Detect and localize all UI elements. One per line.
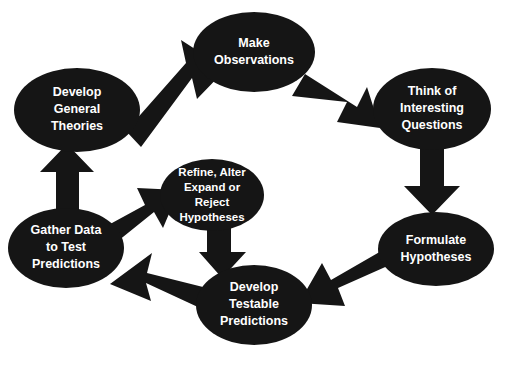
node-label-line: Develop bbox=[230, 280, 279, 294]
arrow-observations-to-questions bbox=[292, 74, 380, 128]
node-label-line: Predictions bbox=[220, 314, 288, 328]
node-label-line: Hypotheses bbox=[401, 250, 472, 264]
node-develop-general-theories[interactable]: DevelopGeneralTheories bbox=[14, 68, 140, 152]
diagram-canvas: DevelopGeneralTheoriesMakeObservationsTh… bbox=[0, 0, 512, 367]
node-label-line: Develop bbox=[53, 85, 102, 99]
node-label-line: Questions bbox=[401, 118, 462, 132]
node-refine-alter-expand-or-reject-hypotheses[interactable]: Refine, AlterExpand orRejectHypotheses bbox=[160, 159, 264, 231]
node-label-line: Testable bbox=[229, 297, 279, 311]
node-label-line: General bbox=[54, 102, 101, 116]
arrow-predictions-to-gather-data bbox=[110, 253, 203, 308]
node-label-line: Interesting bbox=[400, 101, 464, 115]
node-formulate-hypotheses[interactable]: FormulateHypotheses bbox=[378, 212, 494, 286]
node-label-line: Make bbox=[238, 36, 269, 50]
node-make-observations[interactable]: MakeObservations bbox=[193, 12, 315, 92]
scientific-method-diagram: DevelopGeneralTheoriesMakeObservationsTh… bbox=[0, 0, 512, 367]
arrow-hypotheses-to-predictions bbox=[299, 250, 392, 306]
node-think-of-interesting-questions[interactable]: Think ofInterestingQuestions bbox=[373, 68, 491, 150]
node-label-line: Gather Data bbox=[31, 223, 103, 237]
node-label-line: Formulate bbox=[406, 233, 466, 247]
node-label-line: Reject bbox=[195, 196, 230, 208]
node-label-line: to Test bbox=[46, 240, 87, 254]
node-label-line: Theories bbox=[51, 119, 103, 133]
node-label-line: Refine, Alter bbox=[178, 166, 246, 178]
node-label-line: Think of bbox=[408, 84, 457, 98]
node-label-line: Observations bbox=[214, 53, 294, 67]
node-gather-data-to-test-predictions[interactable]: Gather Datato TestPredictions bbox=[8, 208, 124, 288]
node-develop-testable-predictions[interactable]: DevelopTestablePredictions bbox=[196, 265, 312, 345]
node-label-line: Hypotheses bbox=[179, 211, 244, 223]
node-label-line: Expand or bbox=[184, 181, 241, 193]
arrow-questions-to-hypotheses bbox=[404, 140, 460, 215]
node-label-line: Predictions bbox=[32, 257, 100, 271]
arrow-gather-data-to-theories bbox=[40, 144, 94, 218]
